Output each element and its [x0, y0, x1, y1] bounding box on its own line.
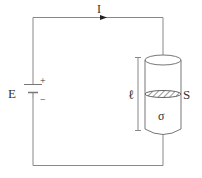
length-marker [135, 57, 141, 131]
cross-section-label: S [183, 88, 190, 101]
circuit-wires [33, 18, 163, 166]
length-label: ℓ [128, 88, 134, 101]
cross-section-hatch [145, 91, 181, 98]
current-arrow-icon [100, 15, 107, 20]
conductivity-label: σ [158, 110, 164, 122]
emf-label: E [8, 87, 16, 100]
current-label: I [97, 3, 101, 15]
circuit-diagram [0, 0, 202, 178]
plus-sign: + [40, 76, 46, 86]
minus-sign: − [40, 95, 46, 105]
